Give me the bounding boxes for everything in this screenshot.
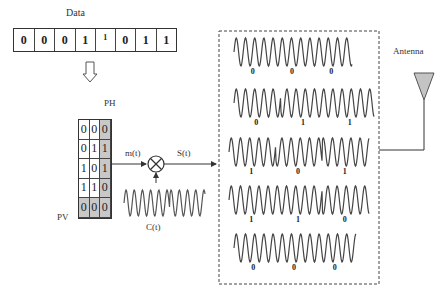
- wave-bit-label: 0: [296, 167, 300, 176]
- wave-bit-label: 1: [296, 215, 300, 224]
- modulated-wave: [229, 186, 369, 214]
- carrier-wave: [124, 190, 205, 216]
- modulated-wave: [234, 38, 352, 66]
- wave-bit-label: 0: [290, 67, 294, 76]
- modulated-wave: [234, 234, 356, 262]
- wave-bit-label: 1: [249, 167, 253, 176]
- diagram-graphics: [0, 0, 447, 286]
- modulated-wave: [234, 89, 374, 117]
- antenna-icon: [414, 73, 434, 100]
- wave-bit-label: 0: [329, 67, 333, 76]
- wave-bit-label: 1: [301, 118, 305, 127]
- down-arrow-icon: [83, 62, 97, 82]
- wave-bit-label: 0: [251, 263, 255, 272]
- wave-bit-label: 1: [249, 215, 253, 224]
- wave-bit-label: 0: [251, 67, 255, 76]
- wave-bit-label: 0: [292, 263, 296, 272]
- antenna-feed-line: [379, 100, 424, 150]
- wave-bit-label: 0: [254, 118, 258, 127]
- wave-bit-label: 1: [348, 118, 352, 127]
- modulated-wave: [229, 138, 369, 166]
- wave-bit-label: 0: [333, 263, 337, 272]
- wave-bit-label: 1: [343, 167, 347, 176]
- wave-bit-label: 0: [343, 215, 347, 224]
- mixer-icon: [148, 156, 164, 172]
